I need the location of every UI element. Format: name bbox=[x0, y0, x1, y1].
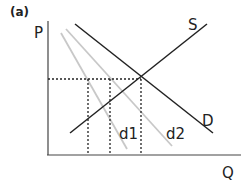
x-axis-label: Q bbox=[222, 164, 234, 182]
supply-demand-diagram: (a) P Q S D d1 d2 bbox=[0, 0, 249, 182]
demand-curve-D bbox=[75, 24, 213, 133]
supply-label: S bbox=[188, 16, 198, 34]
demand2-label: d2 bbox=[166, 125, 185, 143]
demand-label: D bbox=[202, 112, 214, 130]
y-axis-label: P bbox=[34, 24, 43, 42]
panel-label: (a) bbox=[10, 5, 29, 19]
supply-curve-S bbox=[70, 24, 207, 133]
demand1-label: d1 bbox=[119, 125, 138, 143]
